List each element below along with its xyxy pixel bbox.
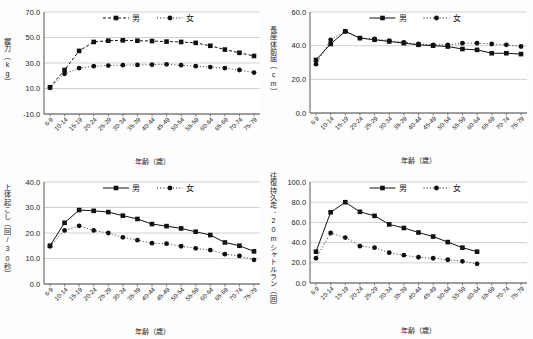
data-point-female — [208, 65, 213, 70]
data-point-male — [519, 52, 524, 57]
x-axis-tick-label: 45-49 — [155, 285, 172, 302]
figure-grid: -10.010.030.050.070.06-910-1415-1920-242… — [0, 0, 533, 339]
x-axis-label: 年齢（歳） — [401, 326, 436, 335]
x-axis-tick-label: 75-79 — [242, 285, 259, 302]
data-point-male — [416, 230, 421, 235]
x-axis-tick-label: 25-29 — [96, 115, 113, 132]
x-axis-tick-label: 10-14 — [319, 114, 336, 131]
x-axis-tick-label: 40-44 — [407, 284, 424, 301]
x-axis-tick-label: 35-39 — [392, 114, 409, 131]
x-axis-tick-label: 65-69 — [480, 114, 497, 131]
x-axis-tick-label: 45-49 — [155, 115, 172, 132]
x-axis-tick-label: 6-9 — [43, 285, 55, 297]
data-point-female — [460, 259, 465, 264]
y-axis-tick-label: 30.0 — [26, 59, 40, 68]
data-point-female — [208, 248, 213, 253]
x-axis-tick-label: 65-69 — [480, 284, 497, 301]
y-axis-tick-label: 30.0 — [26, 203, 40, 212]
data-point-male — [77, 49, 82, 54]
data-point-male — [208, 43, 213, 48]
x-axis-tick-label: 15-19 — [67, 285, 84, 302]
x-axis-tick-label: 20-24 — [82, 115, 99, 132]
x-axis-tick-label: 6-9 — [309, 114, 321, 126]
legend-label-male: 男 — [132, 184, 140, 193]
data-point-male — [237, 243, 242, 248]
x-axis-tick-label: 6-9 — [309, 284, 321, 296]
data-point-female — [314, 62, 319, 67]
data-point-female — [445, 257, 450, 262]
data-point-female — [164, 241, 169, 246]
data-point-female — [106, 231, 111, 236]
data-point-female — [343, 29, 348, 34]
legend-marker-female — [434, 16, 439, 21]
chart-svg-2: 0.010.020.030.040.06-910-1415-1920-2425-… — [0, 170, 266, 339]
data-point-female — [328, 37, 333, 42]
legend-marker-male — [114, 186, 119, 191]
chart-svg-3: 0.020.040.060.080.0100.06-910-1415-1920-… — [266, 170, 533, 339]
data-point-female — [77, 223, 82, 228]
x-axis-tick-label: 35-39 — [125, 115, 142, 132]
legend-marker-male — [380, 186, 385, 191]
y-axis-tick-label: 100.0 — [288, 178, 307, 187]
y-axis-tick-label: 20.0 — [26, 229, 40, 238]
data-point-female — [77, 66, 82, 71]
x-axis-tick-label: 15-19 — [67, 115, 84, 132]
data-point-female — [222, 252, 227, 257]
data-point-female — [475, 261, 480, 266]
x-axis-tick-label: 65-69 — [213, 285, 230, 302]
x-axis-tick-label: 60-64 — [465, 284, 482, 301]
chart-panel-grip-strength: -10.010.030.050.070.06-910-1415-1920-242… — [0, 0, 266, 170]
y-axis-label: 上体起こし（回/30秒） — [3, 184, 11, 282]
x-axis-tick-label: 50-54 — [436, 114, 453, 131]
y-axis-tick-label: 70.0 — [26, 8, 40, 17]
data-point-female — [48, 85, 53, 90]
x-axis-tick-label: 60-64 — [198, 115, 215, 132]
x-axis-tick-label: 50-54 — [436, 284, 453, 301]
x-axis-tick-label: 60-64 — [198, 285, 215, 302]
data-point-female — [358, 36, 363, 41]
data-point-female — [150, 241, 155, 246]
data-point-female — [252, 257, 257, 262]
data-point-male — [208, 233, 213, 238]
data-point-male — [445, 240, 450, 245]
x-axis-tick-label: 40-44 — [407, 114, 424, 131]
x-axis-tick-label: 55-59 — [450, 284, 467, 301]
data-point-male — [164, 39, 169, 44]
chart-svg-0: -10.010.030.050.070.06-910-1415-1920-242… — [0, 0, 266, 170]
data-point-male — [150, 222, 155, 227]
data-point-female — [106, 63, 111, 68]
data-point-female — [222, 66, 227, 71]
data-point-female — [519, 44, 524, 49]
y-axis-tick-label: 0.0 — [30, 280, 40, 289]
x-axis-tick-label: 25-29 — [363, 284, 380, 301]
data-point-female — [193, 64, 198, 69]
x-axis-tick-label: 15-19 — [333, 114, 350, 131]
x-axis-tick-label: 50-54 — [169, 285, 186, 302]
y-axis-label: 長座体前屈（cm） — [269, 26, 277, 100]
data-point-male — [106, 210, 111, 215]
x-axis-tick-label: 50-54 — [169, 115, 186, 132]
y-axis-tick-label: 80.0 — [292, 198, 306, 207]
legend-label-male: 男 — [132, 14, 140, 23]
data-point-female — [431, 42, 436, 47]
data-point-male — [402, 226, 407, 231]
x-axis-label: 年齢（歳） — [401, 156, 436, 165]
data-point-male — [387, 222, 392, 227]
y-axis-tick-label: 0.0 — [296, 109, 306, 118]
data-point-female — [120, 63, 125, 68]
x-axis-tick-label: 70-74 — [227, 115, 244, 132]
legend-label-female: 女 — [186, 13, 194, 23]
data-point-female — [62, 71, 67, 76]
data-point-male — [475, 48, 480, 53]
x-axis-label: 年齢（歳） — [135, 157, 170, 166]
y-axis-tick-label: 20.0 — [292, 258, 306, 267]
chart-panel-sit-ups: 0.010.020.030.040.06-910-1415-1920-2425-… — [0, 170, 266, 339]
data-point-female — [328, 231, 333, 236]
x-axis-tick-label: 45-49 — [421, 114, 438, 131]
data-point-female — [91, 228, 96, 233]
data-point-female — [372, 37, 377, 42]
y-axis-tick-label: 50.0 — [26, 33, 40, 42]
x-axis-tick-label: 55-59 — [184, 115, 201, 132]
data-point-female — [62, 228, 67, 233]
legend-label-male: 男 — [399, 14, 407, 23]
